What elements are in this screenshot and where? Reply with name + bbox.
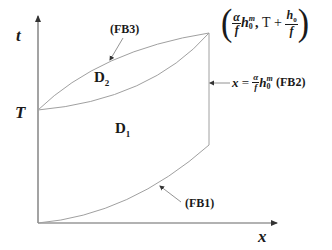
h-symbol: h bbox=[241, 15, 249, 31]
fb1-label: (FB1) bbox=[185, 197, 214, 209]
equals-sign: = bbox=[242, 75, 249, 91]
corner-point-label: ( αf hm0 , T + h0f ) bbox=[221, 6, 309, 40]
d2-lower-curve bbox=[38, 33, 209, 110]
frac-den: f bbox=[290, 25, 294, 37]
fb1-leader bbox=[160, 186, 181, 202]
fb3-label: (FB3) bbox=[110, 23, 139, 35]
h0-over-f: h0f bbox=[285, 9, 297, 37]
plus-sign: + bbox=[274, 15, 282, 31]
frac-num: h0 bbox=[285, 9, 297, 25]
t-axis-label: t bbox=[16, 27, 21, 44]
fb2-label: (FB2) bbox=[276, 75, 305, 90]
region-d2-letter: D bbox=[94, 69, 105, 85]
frac-den: f bbox=[254, 83, 257, 92]
frac-num: α bbox=[232, 11, 241, 24]
frac-den: f bbox=[235, 24, 239, 36]
region-d2-subscript: 2 bbox=[105, 78, 110, 88]
region-d1-letter: D bbox=[115, 120, 126, 136]
region-d1-label: D1 bbox=[115, 121, 130, 139]
close-paren: ) bbox=[298, 4, 309, 41]
fb3-curve bbox=[38, 33, 209, 110]
t-marker-label: T bbox=[15, 104, 25, 121]
fb1-curve bbox=[38, 145, 209, 223]
h0-sub: 0 bbox=[293, 16, 297, 24]
alpha-over-f: αf bbox=[252, 73, 259, 92]
fb2-equation: x = αfhm0 (FB2) bbox=[232, 73, 305, 92]
region-d1-subscript: 1 bbox=[126, 129, 131, 139]
h-symbol: h bbox=[259, 75, 266, 91]
x-symbol: x bbox=[232, 75, 239, 91]
comma: , bbox=[255, 15, 259, 31]
zero-sub: 0 bbox=[267, 83, 273, 91]
region-d2-label: D2 bbox=[94, 70, 109, 88]
x-axis-label: x bbox=[258, 228, 267, 245]
alpha-over-f: αf bbox=[232, 11, 241, 36]
open-paren: ( bbox=[221, 4, 232, 41]
T-symbol: T bbox=[262, 15, 271, 31]
